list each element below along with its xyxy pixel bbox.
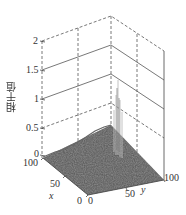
y-tick-50: 50: [125, 189, 135, 199]
y-tick-100: 100: [164, 173, 179, 183]
z-tick-1-5: 1.5: [26, 65, 39, 75]
y-axis-label: y: [141, 185, 145, 195]
x-tick-0: 0: [77, 196, 82, 206]
z-tick-1: 1: [34, 94, 39, 104]
y-tick-0: 0: [88, 196, 93, 206]
z-axis-label: 相干值: [6, 82, 17, 112]
x-tick-50: 50: [50, 179, 60, 189]
x-tick-100: 100: [23, 158, 38, 168]
surface-chart: [0, 0, 186, 215]
z-tick-0-5: 0.5: [26, 123, 39, 133]
x-axis-label: x: [49, 191, 53, 201]
z-tick-2: 2: [33, 36, 38, 46]
